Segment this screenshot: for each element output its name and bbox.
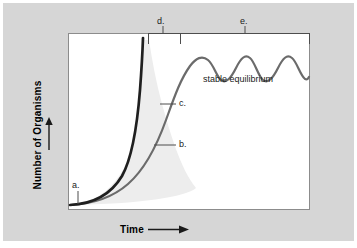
annotation-label-d: d. bbox=[157, 16, 165, 26]
y-axis-title-group: Number of Organisms bbox=[22, 18, 48, 208]
annotation-label-a: a. bbox=[72, 180, 80, 190]
x-axis-title: Time bbox=[120, 224, 144, 235]
growth-curve-figure: d. e. a. b. c. stable equilibrium Number… bbox=[0, 0, 357, 248]
phase-bracket bbox=[148, 34, 310, 45]
x-axis-title-group: Time bbox=[120, 222, 190, 236]
stable-equilibrium-label: stable equilibrium bbox=[203, 74, 273, 84]
y-axis-title-text: Number of Organisms bbox=[32, 81, 43, 190]
arrow-up-icon bbox=[45, 117, 53, 151]
annotation-label-b: b. bbox=[179, 139, 187, 149]
arrow-right-icon bbox=[148, 225, 190, 234]
annotation-label-c: c. bbox=[179, 98, 186, 108]
annotation-label-e: e. bbox=[240, 16, 248, 26]
y-axis-title: Number of Organisms bbox=[32, 80, 54, 190]
